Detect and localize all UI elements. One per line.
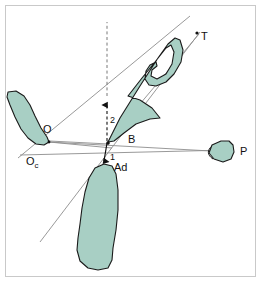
point-B-marker: [106, 141, 110, 145]
diagram-canvas: T O Oc B P Ad 2 1: [0, 0, 261, 282]
label-T: T: [201, 30, 208, 42]
label-Oc-subscript: c: [35, 161, 39, 170]
point-O-marker: [48, 141, 51, 144]
label-vector-2: 2: [110, 115, 115, 125]
label-vector-1: 1: [110, 152, 115, 162]
point-T-marker: [195, 31, 198, 34]
label-B: B: [128, 133, 135, 145]
figure-root: T O Oc B P Ad 2 1: [0, 0, 261, 282]
label-Ad: Ad: [114, 161, 127, 173]
label-P: P: [240, 145, 247, 157]
label-O: O: [43, 123, 52, 135]
